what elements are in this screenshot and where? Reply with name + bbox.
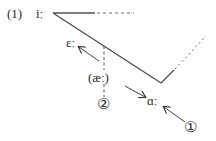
back-rising-dotted-extension [175,36,206,69]
vowel-a-label: ɑː [147,94,157,107]
vowel-ae-label: (æː) [88,71,109,84]
vowel-i-label: iː [36,7,43,20]
arrow-from-step-one [164,107,185,122]
step-two-circle: ② [96,97,110,111]
arrow-to-e [79,47,99,61]
back-rising-line [161,70,174,83]
step-one-circle: ① [183,120,197,134]
arrow-to-a [125,86,145,97]
vowel-e-label: ɛː [66,36,75,49]
example-number: (1) [7,7,22,20]
